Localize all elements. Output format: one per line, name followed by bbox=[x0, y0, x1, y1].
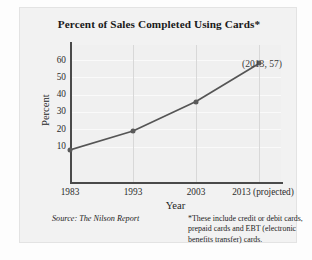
data-point-annotation: (2013, 57) bbox=[242, 58, 282, 69]
footnote-line-2: prepaid cards and EBT (electronic bbox=[188, 224, 312, 234]
source-note: Source: The Nilson Report bbox=[52, 214, 139, 223]
x-tick-1983: 1983 bbox=[52, 187, 88, 197]
x-tick-2013: 2013 (projected) bbox=[225, 187, 301, 197]
y-tick-50: 50 bbox=[44, 72, 66, 82]
chart-figure: Percent of Sales Completed Using Cards* … bbox=[0, 0, 312, 260]
y-tick-40: 40 bbox=[44, 89, 66, 99]
x-tick-2003: 2003 bbox=[178, 187, 214, 197]
y-tick-labels: 60 50 40 30 20 10 bbox=[43, 45, 66, 184]
x-tick-1993: 1993 bbox=[115, 187, 151, 197]
x-axis-label: Year bbox=[70, 200, 281, 211]
y-tick-10: 10 bbox=[44, 141, 66, 151]
footnote-line-3: benefits transfer) cards. bbox=[188, 235, 312, 245]
data-point-2003 bbox=[194, 99, 199, 104]
y-tick-30: 30 bbox=[44, 106, 66, 116]
y-tick-60: 60 bbox=[44, 55, 66, 65]
x-tick-labels: 1983 1993 2003 2013 (projected) bbox=[70, 187, 281, 201]
footnote: *These include credit or debit cards, pr… bbox=[188, 214, 312, 245]
data-point-1983 bbox=[68, 148, 73, 153]
chart-panel: Percent of Sales Completed Using Cards* … bbox=[19, 7, 297, 243]
data-point-1993 bbox=[131, 129, 136, 134]
y-tick-20: 20 bbox=[44, 124, 66, 134]
footnote-line-1: *These include credit or debit cards, bbox=[188, 214, 312, 224]
chart-title: Percent of Sales Completed Using Cards* bbox=[20, 18, 298, 30]
